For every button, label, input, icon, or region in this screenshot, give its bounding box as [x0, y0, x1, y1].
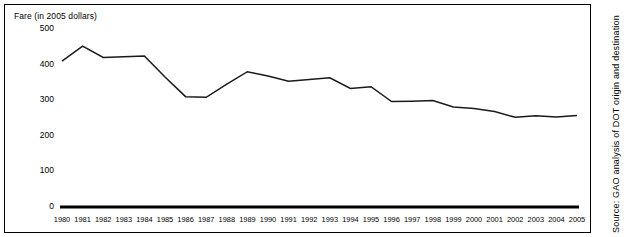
- x-tick-label: 2000: [466, 215, 482, 224]
- chart-frame: Fare (in 2005 dollars) 0100200300400500 …: [4, 4, 591, 233]
- chart-figure: Fare (in 2005 dollars) 0100200300400500 …: [0, 0, 629, 237]
- y-tick-label: 200: [28, 130, 54, 140]
- x-tick-label: 1980: [54, 215, 70, 224]
- x-tick-label: 2005: [569, 215, 585, 224]
- x-tick-label: 1999: [445, 215, 461, 224]
- y-tick-label: 500: [28, 23, 54, 33]
- x-tick-label: 1994: [342, 215, 358, 224]
- x-tick-label: 1995: [363, 215, 379, 224]
- x-tick-label: 1996: [383, 215, 399, 224]
- x-tick-label: 1982: [95, 215, 111, 224]
- data-series-line: [62, 46, 577, 117]
- x-tick-label: 1987: [198, 215, 214, 224]
- plot-area: 0100200300400500 19801981198219831984198…: [5, 5, 592, 234]
- x-tick-label: 1990: [260, 215, 276, 224]
- x-tick-label: 1997: [404, 215, 420, 224]
- x-tick-label: 2001: [486, 215, 502, 224]
- x-tick-label: 1984: [136, 215, 152, 224]
- x-tick-label: 2002: [507, 215, 523, 224]
- x-tick-label: 2004: [548, 215, 564, 224]
- x-tick-label: 1981: [74, 215, 90, 224]
- y-tick-label: 300: [28, 94, 54, 104]
- source-note: Source: GAO analysis of DOT origin and d…: [611, 4, 627, 233]
- x-tick-label: 1989: [239, 215, 255, 224]
- line-plot-svg: [5, 5, 592, 234]
- x-tick-label: 1985: [157, 215, 173, 224]
- x-tick-label: 2003: [528, 215, 544, 224]
- y-tick-label: 0: [28, 201, 54, 211]
- x-tick-label: 1993: [322, 215, 338, 224]
- x-tick-label: 1991: [280, 215, 296, 224]
- x-tick-label: 1983: [116, 215, 132, 224]
- x-tick-label: 1998: [425, 215, 441, 224]
- y-tick-label: 100: [28, 165, 54, 175]
- x-tick-label: 1986: [177, 215, 193, 224]
- x-tick-label: 1992: [301, 215, 317, 224]
- y-tick-label: 400: [28, 59, 54, 69]
- x-tick-label: 1988: [219, 215, 235, 224]
